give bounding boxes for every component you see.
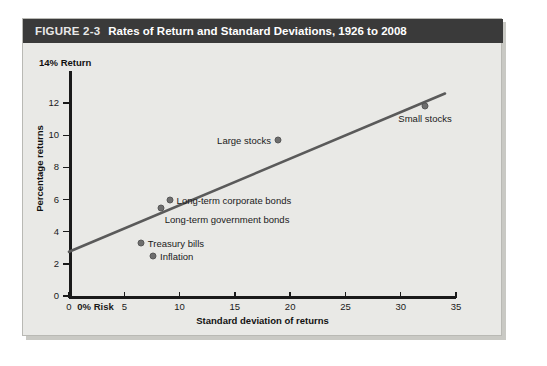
data-point-marker[interactable] — [137, 239, 144, 246]
figure-title: Rates of Return and Standard Deviations,… — [108, 25, 406, 37]
data-point-marker[interactable] — [422, 103, 429, 110]
data-point-label: Inflation — [160, 250, 193, 261]
data-point-label: Long-term government bonds — [165, 213, 290, 224]
data-point-marker[interactable] — [274, 137, 281, 144]
data-point-label: Treasury bills — [148, 237, 204, 248]
plot-area: 14% Return Percentage returns Standard d… — [23, 43, 503, 337]
data-point-label: Large stocks — [217, 135, 271, 146]
figure-panel: FIGURE 2-3 Rates of Return and Standard … — [22, 18, 502, 336]
data-point-marker[interactable] — [157, 204, 164, 211]
data-point-label: Small stocks — [398, 113, 451, 124]
trend-line — [23, 43, 503, 337]
data-point-marker[interactable] — [150, 252, 157, 259]
data-point-label: Long-term corporate bonds — [177, 194, 292, 205]
data-point-marker[interactable] — [166, 196, 173, 203]
figure-title-bar: FIGURE 2-3 Rates of Return and Standard … — [23, 19, 503, 43]
figure-number: FIGURE 2-3 — [35, 25, 100, 37]
